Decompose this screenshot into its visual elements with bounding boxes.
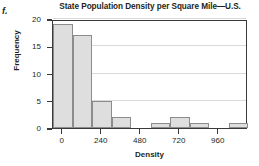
plot-area — [52, 20, 247, 129]
y-tick-label: 10 — [19, 70, 41, 79]
x-tick-mark — [178, 129, 179, 134]
x-tick-mark — [61, 129, 62, 134]
y-tick-mark — [47, 128, 52, 129]
y-tick-mark — [47, 19, 52, 20]
x-tick-label: 480 — [125, 136, 155, 145]
bar — [92, 101, 112, 128]
gridline — [53, 18, 246, 19]
x-tick-label: 720 — [164, 136, 194, 145]
y-tick-mark — [47, 74, 52, 75]
x-tick-mark — [139, 129, 140, 134]
bar — [112, 117, 132, 128]
figure-histogram: f. State Population Density per Square M… — [0, 0, 259, 166]
y-tick-mark — [47, 47, 52, 48]
y-tick-label: 20 — [19, 15, 41, 24]
x-tick-mark — [100, 129, 101, 134]
bar — [170, 117, 190, 128]
bar-series — [53, 21, 246, 128]
chart-title: State Population Density per Square Mile… — [44, 2, 256, 11]
bar — [151, 123, 171, 128]
x-tick-label: 240 — [86, 136, 116, 145]
y-axis-label: Frequency — [12, 11, 21, 91]
y-tick-label: 0 — [19, 124, 41, 133]
x-tick-mark — [217, 129, 218, 134]
bar — [229, 123, 249, 128]
bar — [190, 123, 210, 128]
y-tick-label: 5 — [19, 97, 41, 106]
bar — [53, 24, 73, 128]
x-tick-label: 0 — [47, 136, 77, 145]
figure-part-label: f. — [2, 6, 8, 16]
x-axis-label: Density — [52, 150, 247, 159]
x-tick-label: 960 — [203, 136, 233, 145]
y-tick-mark — [47, 101, 52, 102]
y-tick-label: 15 — [19, 42, 41, 51]
bar — [73, 35, 93, 128]
